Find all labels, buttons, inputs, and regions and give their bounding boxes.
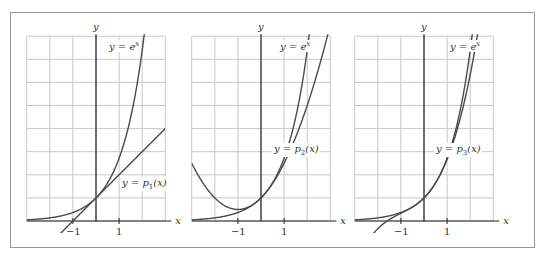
exp-label: y = ex: [279, 40, 310, 52]
y-axis-label: y: [92, 21, 99, 32]
y-axis-label: y: [257, 21, 264, 32]
x-axis-label: x: [503, 215, 509, 226]
exp-label: y = ex: [449, 40, 480, 52]
x-tick-label: 1: [444, 226, 450, 237]
plot-panel-2: xy−11y = exy = p2(x): [192, 21, 347, 237]
x-axis-label: x: [340, 215, 346, 226]
plot-panel-1: xy−11y = exy = p1(x): [27, 21, 182, 237]
x-tick-label: −1: [66, 226, 81, 237]
plot-panel-3: xy−11y = exy = p3(x): [355, 21, 510, 237]
y-axis-label: y: [420, 21, 427, 32]
x-tick-label: −1: [394, 226, 409, 237]
x-tick-label: 1: [281, 226, 287, 237]
x-tick-label: 1: [116, 226, 122, 237]
taylor-polynomial-figure: xy−11y = exy = p1(x)xy−11y = exy = p2(x)…: [0, 0, 547, 258]
x-axis-label: x: [175, 215, 181, 226]
curve-exp: [192, 25, 311, 220]
exp-label: y = ex: [108, 40, 139, 52]
x-tick-label: −1: [231, 226, 246, 237]
curve-exp: [355, 25, 474, 220]
